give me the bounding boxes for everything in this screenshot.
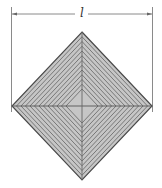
dimension-label: l <box>77 5 87 21</box>
diagram-canvas <box>0 0 162 188</box>
nested-diamond-figure: l <box>0 0 162 188</box>
arrowhead-left-icon <box>12 13 17 16</box>
arrowhead-right-icon <box>147 13 152 16</box>
